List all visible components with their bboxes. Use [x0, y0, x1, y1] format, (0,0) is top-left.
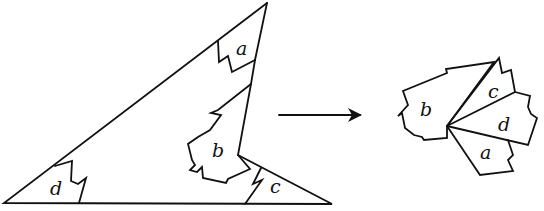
- label-d-left: d: [50, 177, 62, 199]
- triangle-right-edge-lower: [251, 60, 255, 84]
- arrow-right-icon: [279, 108, 362, 122]
- cut-c: [245, 168, 262, 204]
- label-b-right: b: [420, 98, 432, 120]
- label-a-left: a: [236, 37, 247, 59]
- label-c-left: c: [270, 175, 281, 197]
- rearranged-figure: b c d a: [398, 58, 537, 175]
- label-b-left: b: [212, 139, 224, 161]
- label-c-right: c: [488, 80, 499, 102]
- triangle-outline: [4, 3, 332, 204]
- label-d-right: d: [498, 113, 510, 135]
- triangle-figure: a b c d: [4, 3, 332, 204]
- diagram-canvas: a b c d b c d a: [0, 0, 544, 211]
- label-a-right: a: [480, 141, 491, 163]
- piece-b-right: [398, 62, 494, 140]
